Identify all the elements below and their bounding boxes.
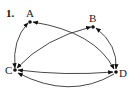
problem-number: 1. — [6, 7, 15, 19]
label-b: B — [89, 12, 96, 24]
edge-b-c — [17, 27, 91, 68]
node-c — [13, 68, 17, 72]
node-b — [91, 25, 95, 29]
label-a: A — [26, 7, 34, 19]
edge-a-c — [15, 23, 28, 68]
edge-b-d — [96, 28, 116, 69]
edge-c-d — [18, 70, 113, 74]
label-d: D — [119, 67, 127, 79]
node-d — [114, 70, 118, 74]
directed-graph: 1. A B C D — [0, 0, 131, 93]
label-c: C — [5, 64, 12, 76]
edge-d-c-arc — [18, 73, 114, 87]
node-a — [28, 20, 32, 24]
